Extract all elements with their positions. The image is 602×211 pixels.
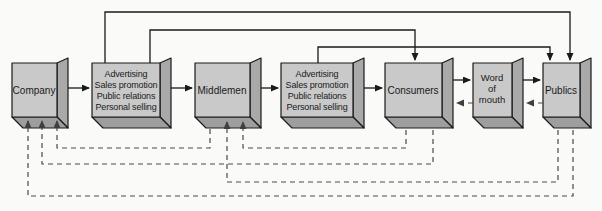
box-side-face <box>512 58 523 128</box>
box-bottom-face <box>92 117 171 128</box>
box-side-face <box>57 58 68 128</box>
box-side-face <box>250 58 261 128</box>
node-promotion-mix-2: Advertising Sales promotion Public relat… <box>281 58 364 128</box>
node-middlemen: Middlemen <box>195 58 261 128</box>
marketing-communication-flow-diagram: Company Advertising Sales promotion Publ… <box>0 0 602 211</box>
box-side-face <box>442 58 453 128</box>
node-label-line: mouth <box>479 94 505 105</box>
diagram-canvas: Company Advertising Sales promotion Publ… <box>0 0 602 211</box>
box-bottom-face <box>195 117 261 128</box>
node-label-line: Personal selling <box>286 102 347 112</box>
box-side-face <box>580 58 591 128</box>
box-side-face <box>353 58 364 128</box>
node-label: Middlemen <box>198 85 247 96</box>
node-label-line: Public relations <box>97 91 156 101</box>
node-consumers: Consumers <box>385 58 453 128</box>
box-bottom-face <box>281 117 364 128</box>
box-side-face <box>160 58 171 128</box>
node-label-line: Advertising <box>105 69 148 79</box>
node-label-line: Word <box>481 72 504 83</box>
node-label: Publics <box>545 85 577 96</box>
node-company: Company <box>12 58 68 128</box>
node-label-line: Personal selling <box>95 102 156 112</box>
node-publics: Publics <box>543 58 591 128</box>
node-promotion-mix-1: Advertising Sales promotion Public relat… <box>92 58 171 128</box>
node-word-of-mouth: Word of mouth <box>473 58 523 128</box>
node-label-line: Advertising <box>296 69 339 79</box>
node-label: Consumers <box>387 85 438 96</box>
node-label-line: Sales promotion <box>95 80 158 90</box>
node-label-line: Sales promotion <box>286 80 349 90</box>
node-label-line: of <box>488 83 496 94</box>
box-bottom-face <box>385 117 453 128</box>
node-label-line: Public relations <box>288 91 347 101</box>
node-label: Company <box>13 85 56 96</box>
